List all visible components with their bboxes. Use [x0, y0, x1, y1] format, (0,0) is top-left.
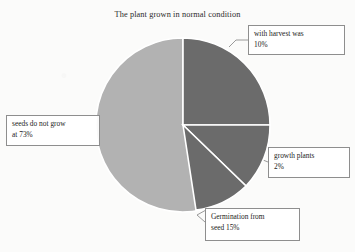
- callout-harvest-line2: 10%: [254, 40, 339, 51]
- callout-harvest-line1: with harvest was: [254, 29, 339, 40]
- leader-line-harvest: [229, 40, 248, 47]
- callout-growth-line1: growth plants: [274, 151, 344, 162]
- callout-growth-plants: growth plants 2%: [268, 147, 350, 178]
- callout-germination-from-seed: Germination from seed 15%: [205, 208, 300, 241]
- callout-seeds-line2: at 73%: [12, 130, 94, 141]
- pie-chart-figure: The plant grown in normal condition with…: [0, 0, 355, 252]
- pie-slices: [96, 38, 270, 212]
- callout-seeds-do-not-grow: seeds do not grow at 73%: [6, 115, 100, 146]
- callout-with-harvest-was: with harvest was 10%: [248, 25, 345, 55]
- callout-seeds-line1: seeds do not grow: [12, 119, 94, 130]
- callout-germination-line2: seed 15%: [211, 223, 294, 234]
- callout-germination-line1: Germination from: [211, 212, 294, 223]
- callout-growth-line2: 2%: [274, 162, 344, 173]
